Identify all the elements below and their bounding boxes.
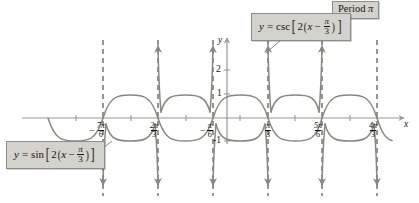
left-paren-icon: ( [57,148,60,161]
x-tick-label-4pi-3: 4π 3 [367,122,379,139]
right-bracket-icon: ] [90,147,95,163]
left-bracket-icon: [ [291,19,296,35]
y-axis-label: y [218,36,222,46]
sin-equals: = [22,149,28,160]
sin-coefficient: 2 [51,149,57,160]
x-tick-label-pi-3: π 3 [264,122,272,139]
right-bracket-icon: ] [337,19,342,35]
tick-denominator: 6 [315,130,321,139]
sin-shift-fraction: π 3 [77,145,84,164]
right-paren-icon: ) [86,148,89,161]
tick-denominator: 3 [265,130,271,139]
x-tick-label-neg-7pi-6: − 7π 6 [89,122,107,139]
csc-shift-numerator: π [324,17,331,26]
callout-leader-lines [97,39,282,153]
right-paren-icon: ) [332,20,335,33]
tick-sign: − [200,126,206,136]
tick-sign: − [89,126,95,136]
y-tick-label-2: 2 [216,65,221,75]
sin-minus-sign: − [68,149,74,160]
sin-shift-denominator: 3 [77,154,84,164]
csc-shift-denominator: 3 [324,26,331,36]
csc-shift-fraction: π 3 [324,17,331,36]
csc-minus-sign: − [314,21,320,32]
y-axis [224,38,230,144]
y-tick-label-1: 1 [217,89,222,99]
x-tick-label-neg-pi-6: − π 6 [200,122,214,139]
tick-denominator: 3 [370,130,376,139]
tick-numerator: π [265,122,271,130]
tick-denominator: 3 [151,130,157,139]
sin-lhs: y [14,149,19,160]
tick-numerator: 7π [96,122,106,130]
tick-numerator: 2π [149,122,159,130]
sine-equation-callout: y = sin [ 2 ( x − π 3 ) ] [6,141,105,169]
sin-variable: x [61,149,66,160]
x-axis-label: x [404,120,408,130]
x-tick-label-neg-2pi-3: 2π 3 [148,122,160,139]
csc-lhs: y [259,21,264,32]
period-value: π [368,4,373,15]
left-paren-icon: ( [304,20,307,33]
left-bracket-icon: [ [45,147,50,163]
sin-shift-numerator: π [77,145,84,154]
tick-numerator: 4π [368,122,378,130]
csc-function-name: csc [276,21,290,32]
y-tick-label-neg1: -1 [213,136,221,146]
graph-canvas [0,0,419,203]
tick-denominator: 6 [207,130,213,139]
tick-numerator: π [207,122,213,130]
csc-equals: = [267,21,273,32]
tick-numerator: 5π [313,122,323,130]
csc-variable: x [307,21,312,32]
csc-coefficient: 2 [297,21,303,32]
tick-denominator: 6 [98,130,104,139]
x-tick-label-5pi-6: 5π 6 [312,122,324,139]
sin-function-name: sin [31,149,44,160]
cosecant-equation-callout: y = csc [ 2 ( x − π 3 ) ] [251,13,351,41]
